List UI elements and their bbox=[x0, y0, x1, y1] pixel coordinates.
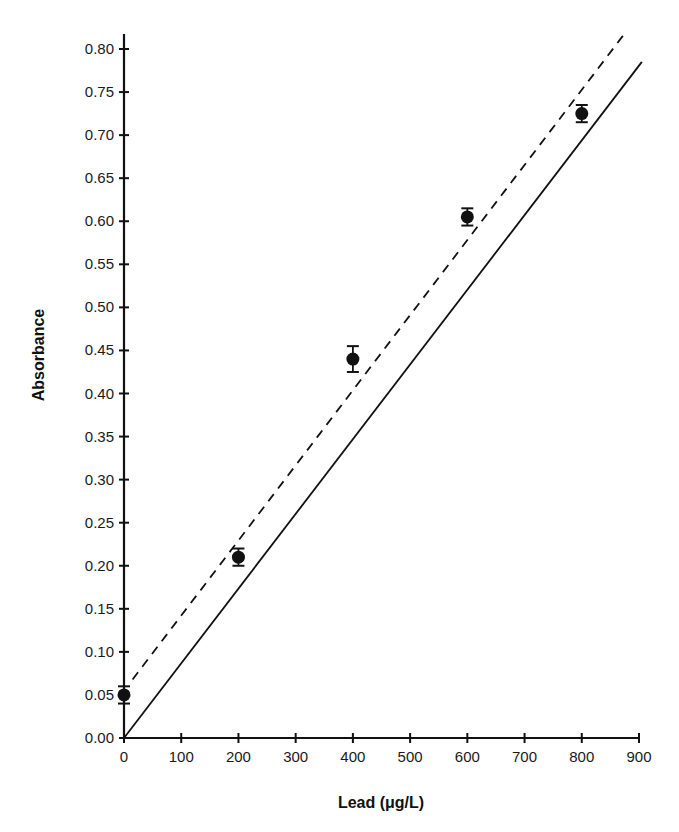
y-tick-label: 0.05 bbox=[85, 686, 114, 703]
x-tick-label: 700 bbox=[512, 748, 537, 765]
y-tick-label: 0.15 bbox=[85, 600, 114, 617]
filled-circle-marker bbox=[461, 210, 474, 223]
filled-circle-marker bbox=[575, 107, 588, 120]
y-tick-label: 0.25 bbox=[85, 514, 114, 531]
data-point bbox=[346, 346, 359, 372]
data-point bbox=[232, 549, 245, 566]
filled-circle-marker bbox=[118, 688, 131, 701]
y-tick-label: 0.50 bbox=[85, 298, 114, 315]
x-tick-label: 200 bbox=[226, 748, 251, 765]
y-axis: 0.000.050.100.150.200.250.300.350.400.45… bbox=[85, 34, 129, 746]
x-tick-label: 0 bbox=[120, 748, 128, 765]
filled-circle-marker bbox=[232, 551, 245, 564]
plot-lines bbox=[124, 33, 642, 738]
x-tick-label: 100 bbox=[169, 748, 194, 765]
y-tick-label: 0.10 bbox=[85, 643, 114, 660]
data-points bbox=[118, 105, 589, 704]
x-tick-label: 900 bbox=[626, 748, 651, 765]
filled-circle-marker bbox=[346, 353, 359, 366]
y-tick-label: 0.70 bbox=[85, 126, 114, 143]
solid-reference-line bbox=[124, 62, 642, 738]
x-tick-label: 500 bbox=[398, 748, 423, 765]
y-tick-label: 0.30 bbox=[85, 471, 114, 488]
x-axis-title: Lead (μg/L) bbox=[338, 794, 424, 811]
x-tick-label: 400 bbox=[340, 748, 365, 765]
y-tick-label: 0.75 bbox=[85, 83, 114, 100]
y-tick-label: 0.65 bbox=[85, 169, 114, 186]
y-tick-label: 0.45 bbox=[85, 341, 114, 358]
data-point bbox=[118, 686, 131, 703]
y-tick-label: 0.35 bbox=[85, 428, 114, 445]
y-tick-label: 0.20 bbox=[85, 557, 114, 574]
dashed-fit-line bbox=[133, 33, 625, 679]
y-tick-label: 0.60 bbox=[85, 212, 114, 229]
y-tick-label: 0.00 bbox=[85, 729, 114, 746]
x-axis: 0100200300400500600700800900 bbox=[120, 733, 652, 765]
chart: 0.000.050.100.150.200.250.300.350.400.45… bbox=[0, 0, 679, 832]
x-tick-label: 800 bbox=[569, 748, 594, 765]
y-tick-label: 0.40 bbox=[85, 385, 114, 402]
x-tick-label: 300 bbox=[283, 748, 308, 765]
y-tick-label: 0.80 bbox=[85, 40, 114, 57]
x-tick-label: 600 bbox=[455, 748, 480, 765]
y-axis-title: Absorbance bbox=[30, 309, 47, 402]
data-point bbox=[461, 208, 474, 225]
data-point bbox=[575, 105, 588, 122]
y-tick-label: 0.55 bbox=[85, 255, 114, 272]
